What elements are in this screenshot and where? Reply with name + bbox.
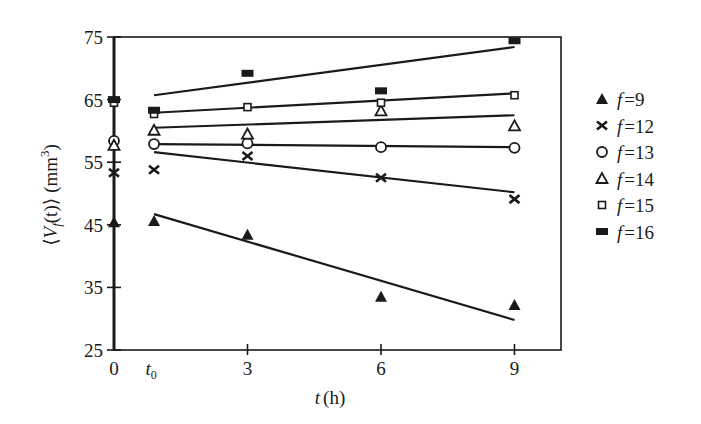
- legend-item: f=13: [597, 142, 654, 163]
- x-cross-marker: [149, 166, 159, 174]
- fit-line-f9: [154, 214, 514, 320]
- x-cross-marker: [510, 195, 520, 203]
- filled-rect-marker: [242, 70, 254, 77]
- y-tick-label: 35: [84, 277, 103, 298]
- legend-item: f=16: [596, 222, 654, 243]
- x-tick-label: 3: [243, 358, 253, 379]
- legend-item: f=14: [597, 169, 655, 190]
- open-triangle-marker: [149, 125, 160, 135]
- y-axis-label: ⟨Vf(t)⟩(mm3): [37, 144, 64, 246]
- x-tick-label: 9: [510, 358, 520, 379]
- y-label-unit: (mm: [40, 157, 62, 193]
- legend: f=9f=12f=13f=14f=15f=16: [596, 89, 654, 243]
- legend-label: f=15: [617, 195, 654, 216]
- legend-label: f=12: [617, 116, 654, 137]
- open-circle-marker: [243, 138, 253, 148]
- filled-triangle-marker: [148, 215, 160, 226]
- legend-item: f=12: [597, 116, 654, 137]
- series-f16: [108, 37, 521, 113]
- scatter-chart: 253545556575 0t0369 f=9f=12f=13f=14f=15f…: [0, 0, 701, 424]
- open-circle-marker: [149, 139, 159, 149]
- legend-label: f=14: [617, 169, 654, 190]
- fit-lines: [154, 47, 514, 320]
- open-square-marker: [511, 92, 518, 99]
- x-axis-label-var: t: [315, 387, 321, 408]
- y-tick-label: 25: [84, 340, 103, 361]
- y-label-close: ⟩: [40, 198, 61, 205]
- open-triangle-marker: [242, 129, 253, 139]
- filled-triangle-marker: [108, 216, 120, 227]
- open-circle-marker: [376, 142, 386, 152]
- filled-rect-marker: [375, 87, 387, 94]
- filled-triangle-marker: [596, 93, 608, 104]
- filled-rect-marker: [148, 107, 160, 114]
- filled-rect-marker: [108, 96, 120, 103]
- open-square-marker: [378, 99, 385, 106]
- filled-triangle-marker: [509, 299, 521, 310]
- filled-triangle-marker: [242, 229, 254, 240]
- y-label-arg: (t): [40, 205, 62, 223]
- legend-item: f=15: [599, 195, 655, 216]
- y-tick-label: 75: [84, 27, 103, 48]
- open-square-marker: [599, 202, 606, 209]
- legend-label: f=9: [617, 89, 645, 110]
- x-tick-label: t0: [145, 358, 156, 382]
- series-f9: [108, 215, 521, 310]
- x-axis-label-unit: (h): [323, 387, 345, 409]
- fit-line-f12: [154, 152, 514, 192]
- data-points: [108, 37, 521, 310]
- x-cross-marker: [243, 152, 253, 160]
- x-tick-label: 0: [109, 358, 119, 379]
- x-axis-label: t(h): [315, 387, 345, 409]
- series-f12: [109, 152, 520, 203]
- x-cross-marker: [597, 122, 607, 130]
- open-circle-marker: [510, 143, 520, 153]
- plot-border: [114, 37, 561, 350]
- plot-frame: [114, 37, 561, 350]
- y-tick-label: 65: [84, 90, 103, 111]
- fit-line-f13: [154, 144, 514, 147]
- y-tick-label: 45: [84, 215, 103, 236]
- y-tick-label: 55: [84, 152, 103, 173]
- legend-label: f=13: [617, 142, 654, 163]
- open-triangle-marker: [597, 173, 608, 183]
- fit-line-f16: [154, 47, 514, 95]
- y-label-unit-close: ): [40, 144, 62, 150]
- filled-rect-marker: [509, 37, 521, 44]
- open-circle-marker: [597, 147, 607, 157]
- fit-line-f15: [154, 93, 514, 112]
- open-square-marker: [244, 104, 251, 111]
- legend-item: f=9: [596, 89, 645, 110]
- y-label-open: ⟨: [40, 238, 61, 245]
- filled-rect-marker: [596, 228, 608, 235]
- legend-label: f=16: [617, 222, 654, 243]
- fit-line-f14: [154, 115, 514, 128]
- filled-triangle-marker: [375, 291, 387, 302]
- open-triangle-marker: [509, 120, 520, 130]
- x-tick-label: 6: [376, 358, 386, 379]
